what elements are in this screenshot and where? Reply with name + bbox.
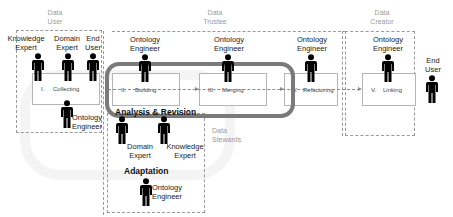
person-icon <box>61 53 75 81</box>
zone-label-line: Data <box>212 126 246 135</box>
role-merge-ontology-engineer: Ontology Engineer <box>212 35 246 53</box>
zone-data-creator-divider <box>342 31 343 136</box>
role-line: Engineer <box>128 44 162 53</box>
role-line: Knowledge <box>166 142 204 151</box>
role-line: Engineer <box>72 122 104 131</box>
person-icon <box>139 178 153 206</box>
role-refactor-ontology-engineer: Ontology Engineer <box>295 35 329 53</box>
role-line: Domain <box>126 142 154 151</box>
person-icon <box>304 54 318 82</box>
role-line: Ontology <box>371 35 405 44</box>
role-knowledge-expert: Knowledge Expert <box>6 34 46 52</box>
zone-label-line: Data <box>365 8 399 17</box>
role-line: Engineer <box>212 44 246 53</box>
role-line: Engineer <box>371 44 405 53</box>
stage-number: I. <box>41 86 44 92</box>
person-icon <box>86 53 100 81</box>
role-line: Expert <box>52 43 82 52</box>
zone-label-data-stewards: Data Stewards <box>212 126 246 144</box>
zone-label-data-user: Data User <box>40 8 70 26</box>
zone-label-line: Trustee <box>200 17 230 26</box>
zone-label-line: Creator <box>365 17 399 26</box>
role-line: Ontology <box>295 35 329 44</box>
role-line: Ontology <box>72 113 104 122</box>
role-line: Engineer <box>295 44 329 53</box>
stage-label: Refactoring <box>303 87 334 93</box>
role-line: Ontology <box>152 183 184 192</box>
zone-label-line: Data <box>200 8 230 17</box>
person-icon <box>425 75 439 103</box>
person-icon <box>138 54 152 82</box>
zone-label-data-trustee: Data Trustee <box>200 8 230 26</box>
role-domain-expert: Domain Expert <box>52 34 82 52</box>
stage-label: Collecting <box>53 86 79 92</box>
role-end-user-right: End User <box>422 56 444 74</box>
zone-label-line: Stewards <box>212 135 246 144</box>
role-end-user: End User <box>84 34 102 52</box>
role-ar-knowledge-expert: Knowledge Expert <box>166 142 204 160</box>
zone-data-trustee <box>112 31 346 32</box>
role-line: Knowledge <box>6 34 46 43</box>
section-adaptation: Adaptation <box>124 166 168 176</box>
zone-label-line: Data <box>40 8 70 17</box>
role-line: End <box>422 56 444 65</box>
role-line: Ontology <box>128 35 162 44</box>
zone-label-line: User <box>40 17 70 26</box>
role-line: End <box>84 34 102 43</box>
role-line: Expert <box>6 43 46 52</box>
person-icon <box>157 116 171 144</box>
person-icon <box>31 53 45 81</box>
role-build-ontology-engineer: Ontology Engineer <box>128 35 162 53</box>
role-ar-domain-expert: Domain Expert <box>126 142 154 160</box>
arrow-to-linking <box>358 87 362 91</box>
person-icon <box>381 54 395 82</box>
person-icon <box>115 116 129 144</box>
zone-label-data-creator: Data Creator <box>365 8 399 26</box>
role-collect-ontology-engineer: Ontology Engineer <box>72 113 104 131</box>
role-line: User <box>422 65 444 74</box>
role-link-ontology-engineer: Ontology Engineer <box>371 35 405 53</box>
role-line: User <box>84 43 102 52</box>
role-line: Expert <box>126 151 154 160</box>
role-adapt-ontology-engineer: Ontology Engineer <box>152 183 184 201</box>
person-icon <box>221 54 235 82</box>
role-line: Expert <box>166 151 204 160</box>
stage-label: Linking <box>383 87 402 93</box>
role-line: Domain <box>52 34 82 43</box>
role-line: Engineer <box>152 192 184 201</box>
stage-number: V. <box>371 87 376 93</box>
role-line: Ontology <box>212 35 246 44</box>
